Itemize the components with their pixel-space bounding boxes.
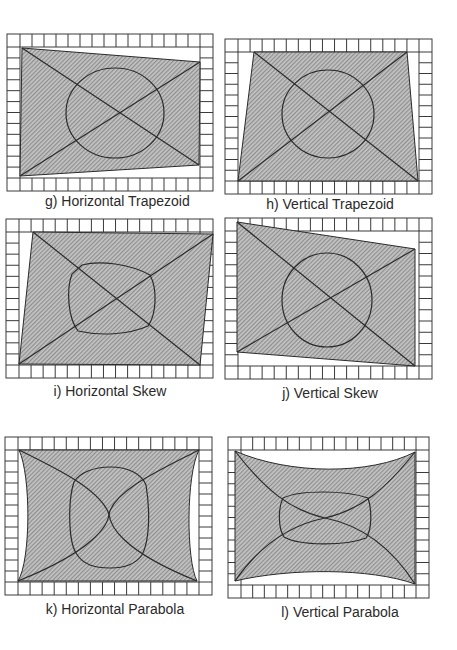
panel-vertical-parabola: l) Vertical Parabola [0,0,457,650]
caption-l: l) Vertical Parabola [275,604,405,620]
vertical-parabola-diagram [0,0,457,650]
